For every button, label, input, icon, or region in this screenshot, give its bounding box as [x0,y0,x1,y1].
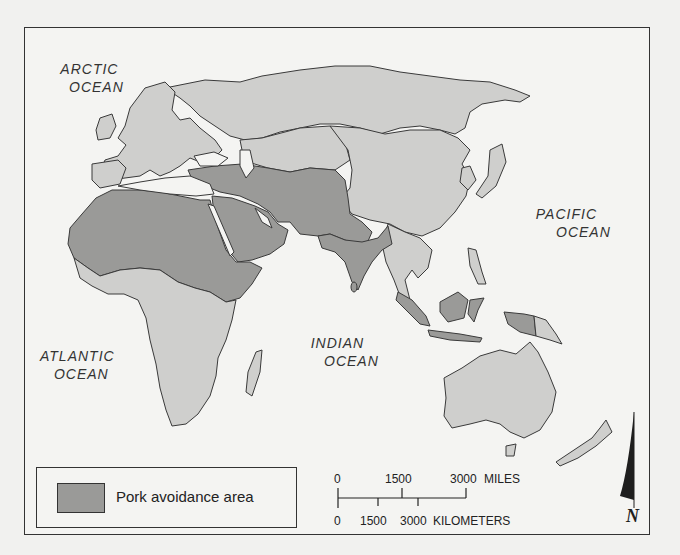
region-new-zealand [556,420,612,466]
scale-miles-3000: 3000 [450,472,477,486]
label-arctic-ocean: ARCTIC OCEAN [55,60,124,96]
scale-miles-unit: MILES [484,472,520,486]
north-arrow-icon [614,410,644,520]
label-pacific-line1: PACIFIC [522,205,611,223]
scale-km-unit: KILOMETERS [433,514,510,528]
label-atlantic-line1: ATLANTIC [40,347,115,365]
region-sumatra [396,292,430,326]
label-arctic-line1: ARCTIC [55,60,124,78]
legend: Pork avoidance area [36,467,297,528]
label-pacific-ocean: PACIFIC OCEAN [522,205,611,241]
region-iberia [92,160,126,188]
region-british-isles [96,114,116,140]
region-madagascar [246,350,262,396]
scale-miles-0: 0 [334,472,341,486]
region-sulawesi [468,298,484,322]
scale-km-0: 0 [334,514,341,528]
region-java [428,330,482,342]
label-atlantic-ocean: ATLANTIC OCEAN [40,347,115,383]
label-atlantic-line2: OCEAN [40,365,115,383]
label-indian-line2: OCEAN [296,352,379,370]
region-tasmania [506,444,516,456]
label-arctic-line2: OCEAN [55,78,124,96]
region-papua-new-guinea [534,316,562,344]
label-indian-ocean: INDIAN OCEAN [296,334,379,370]
region-sri-lanka [351,282,357,292]
scale-km-1500: 1500 [360,514,387,528]
scale-miles-1500: 1500 [385,472,412,486]
label-indian-line1: INDIAN [296,334,379,352]
north-label: N [626,506,639,527]
label-pacific-line2: OCEAN [522,223,611,241]
region-new-guinea-west [504,312,536,336]
scale-km-3000: 3000 [400,514,427,528]
legend-swatch-pork-avoidance [57,483,105,513]
region-philippines [468,248,486,284]
region-australia [444,342,556,438]
region-borneo [440,292,468,322]
legend-label: Pork avoidance area [116,488,254,505]
region-japan [476,144,506,198]
north-arrow: N [614,410,644,524]
scale-bar [330,486,470,510]
